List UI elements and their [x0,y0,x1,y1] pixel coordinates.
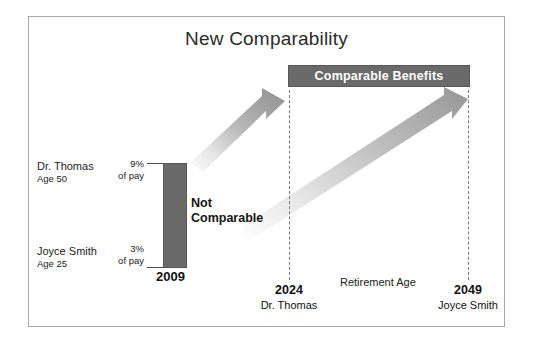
dashed-line-2024 [289,90,290,280]
person-name: Dr. Thomas [37,160,94,173]
pct-unit: of pay [104,255,144,267]
person-age: Age 25 [37,258,97,270]
pct-unit: of pay [104,170,144,182]
timeline-person: Dr. Thomas [249,298,329,312]
bar-year-label: 2009 [156,269,185,284]
pct-value: 3% [104,243,144,255]
comparable-benefits-banner: Comparable Benefits [288,65,470,87]
pct-value: 9% [104,158,144,170]
not-comparable-annotation: Not Comparable [191,196,263,226]
person-label-dr-thomas: Dr. Thomas Age 50 [37,160,94,185]
retirement-age-label: Retirement Age [340,276,416,288]
not-comparable-line-1: Not [191,196,263,211]
contribution-bar-2009 [163,163,187,268]
timeline-year: 2024 [249,283,329,298]
timeline-person: Joyce Smith [428,298,508,312]
not-comparable-line-2: Comparable [191,211,263,226]
person-age: Age 50 [37,173,94,185]
timeline-marker-2024: 2024 Dr. Thomas [249,283,329,312]
diagram-canvas: New Comparability Compa [0,0,533,342]
timeline-marker-2049: 2049 Joyce Smith [428,283,508,312]
arrow-upper [190,88,285,172]
pct-callout-dr-thomas: 9% of pay [104,158,144,182]
timeline-year: 2049 [428,283,508,298]
leader-line-bottom [147,267,164,268]
person-name: Joyce Smith [37,245,97,258]
pct-callout-joyce-smith: 3% of pay [104,243,144,267]
banner-label: Comparable Benefits [315,69,444,83]
dashed-line-2049 [468,90,469,280]
person-label-joyce-smith: Joyce Smith Age 25 [37,245,97,270]
leader-line-top [147,163,164,164]
